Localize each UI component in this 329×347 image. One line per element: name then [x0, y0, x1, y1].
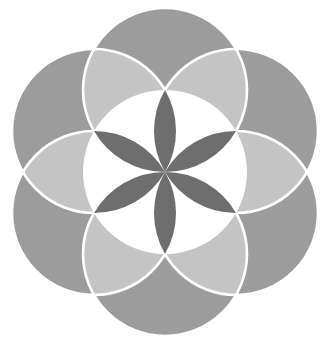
seed-of-life-diagram: [0, 0, 329, 347]
seed-of-life-figure: [0, 0, 329, 347]
